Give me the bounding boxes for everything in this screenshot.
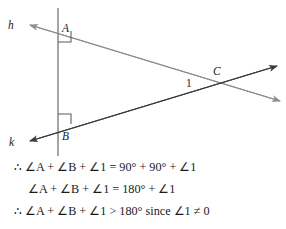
label-point-b: B (62, 131, 69, 143)
label-point-c: C (213, 66, 221, 78)
right-angle-marker-B (58, 114, 71, 124)
geometry-figure: h k A B C 1 ∴ ∠A + ∠B + ∠1 = 90° + 90° +… (0, 0, 286, 229)
label-line-k: k (9, 137, 14, 149)
proof-line-1: ∴ ∠A + ∠B + ∠1 = 90° + 90° + ∠1 (0, 156, 286, 178)
label-line-h: h (8, 20, 14, 32)
proof-line-2: ∠A + ∠B + ∠1 = 180° + ∠1 (0, 178, 286, 200)
proof-text-block: ∴ ∠A + ∠B + ∠1 = 90° + 90° + ∠1 ∠A + ∠B … (0, 156, 286, 222)
label-angle-one: 1 (186, 78, 192, 90)
line-h-ray-right (30, 25, 280, 101)
label-point-a: A (62, 23, 69, 35)
proof-line-3: ∴ ∠A + ∠B + ∠1 > 180° since ∠1 ≠ 0 (0, 200, 286, 222)
